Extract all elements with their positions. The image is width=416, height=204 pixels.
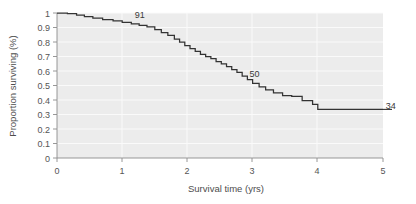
x-axis-title: Survival time (yrs) xyxy=(188,183,264,194)
y-tick-label: 0.7 xyxy=(37,52,50,62)
x-tick-labels: 0 1 2 3 4 5 xyxy=(54,166,385,176)
x-tick-label: 2 xyxy=(184,166,189,176)
x-tick-label: 1 xyxy=(119,166,124,176)
y-tick-label: 0.5 xyxy=(37,81,50,91)
x-tick-label: 5 xyxy=(380,166,385,176)
y-tick-marks xyxy=(53,13,57,158)
y-tick-label: 0.1 xyxy=(37,139,50,149)
y-tick-label: 0.8 xyxy=(37,38,50,48)
survival-chart-figure: 1 0.9 0.8 0.7 0.6 0.5 0.4 0.3 0.2 0.1 0 … xyxy=(0,0,416,204)
x-tick-marks xyxy=(57,158,383,162)
chart-canvas: 1 0.9 0.8 0.7 0.6 0.5 0.4 0.3 0.2 0.1 0 … xyxy=(0,0,416,204)
y-tick-label: 0.9 xyxy=(37,23,50,33)
y-tick-label: 0 xyxy=(45,154,50,164)
at-risk-label-34: 34 xyxy=(386,101,396,111)
x-tick-label: 4 xyxy=(314,166,319,176)
x-tick-label: 3 xyxy=(249,166,254,176)
y-tick-label: 0.3 xyxy=(37,110,50,120)
x-tick-label: 0 xyxy=(54,166,59,176)
at-risk-label-50: 50 xyxy=(250,69,260,79)
y-tick-label: 0.2 xyxy=(37,125,50,135)
y-tick-labels: 1 0.9 0.8 0.7 0.6 0.5 0.4 0.3 0.2 0.1 0 xyxy=(37,9,50,164)
y-axis-title: Proportion surviving (%) xyxy=(7,35,18,136)
at-risk-label-91: 91 xyxy=(135,10,145,20)
y-tick-label: 0.6 xyxy=(37,67,50,77)
y-tick-label: 1 xyxy=(45,9,50,19)
y-tick-label: 0.4 xyxy=(37,96,50,106)
